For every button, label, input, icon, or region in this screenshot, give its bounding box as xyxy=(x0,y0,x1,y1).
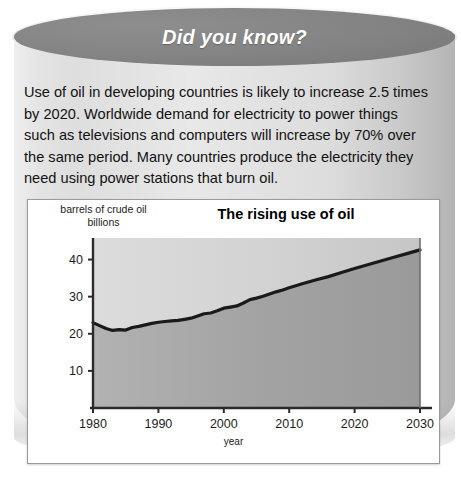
x-tick-label: 2000 xyxy=(210,417,238,431)
x-tick-label: 2020 xyxy=(341,417,369,431)
card-header-title: Did you know? xyxy=(14,8,455,66)
did-you-know-card: Did you know? Use of oil in developing c… xyxy=(0,0,461,485)
area-chart-svg: 10203040198019902000201020202030 xyxy=(28,200,439,440)
y-tick-label: 10 xyxy=(69,364,83,378)
y-tick-label: 30 xyxy=(69,290,83,304)
chart-x-axis-label: year xyxy=(28,436,439,447)
y-tick-label: 20 xyxy=(69,327,83,341)
x-tick-label: 2010 xyxy=(275,417,303,431)
x-tick-label: 1980 xyxy=(79,417,107,431)
x-tick-label: 2030 xyxy=(406,417,434,431)
card-body-text: Use of oil in developing countries is li… xyxy=(24,82,428,190)
chart-plot-area: 10203040198019902000201020202030 xyxy=(28,200,439,463)
x-tick-label: 1990 xyxy=(144,417,172,431)
y-tick-label: 40 xyxy=(69,253,83,267)
chart-panel: barrels of crude oil billions The rising… xyxy=(27,199,440,464)
